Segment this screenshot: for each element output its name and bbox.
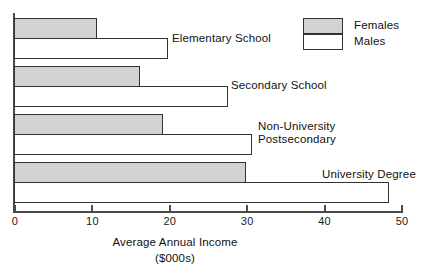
bar-males	[14, 86, 228, 107]
x-tick-label: 40	[318, 215, 331, 227]
x-tick	[14, 205, 16, 212]
bar-females	[14, 18, 97, 39]
x-tick-label: 50	[396, 215, 409, 227]
x-tick	[169, 205, 171, 212]
group-label: University Degree	[322, 168, 416, 181]
legend-label-males: Males	[354, 35, 385, 47]
x-tick-label: 20	[163, 215, 176, 227]
group-label-line1: University Degree	[322, 168, 416, 181]
group-label: Secondary School	[231, 79, 327, 92]
bar-chart: 01020304050 Elementary SchoolSecondary S…	[0, 0, 427, 274]
x-tick-label: 30	[241, 215, 254, 227]
x-tick	[246, 205, 248, 212]
bar-males	[14, 134, 252, 155]
bar-males	[14, 182, 389, 203]
group-label-line1: Elementary School	[172, 32, 271, 45]
legend-label-females: Females	[354, 19, 399, 31]
bar-females	[14, 114, 163, 135]
x-tick-label: 0	[12, 215, 18, 227]
bar-females	[14, 162, 246, 183]
x-tick	[401, 205, 403, 212]
group-label-line2: Postsecondary	[258, 133, 336, 146]
x-tick	[324, 205, 326, 212]
x-axis-title-line1: Average Annual Income	[0, 234, 350, 250]
x-axis-line	[13, 211, 403, 213]
legend-swatch-males-icon	[303, 34, 343, 50]
group-label-line1: Secondary School	[231, 79, 327, 92]
x-axis-title: Average Annual Income ($000s)	[0, 234, 350, 266]
group-label: Non-UniversityPostsecondary	[258, 120, 336, 146]
group-label-line1: Non-University	[258, 120, 336, 133]
bar-males	[14, 38, 168, 59]
bar-females	[14, 66, 140, 87]
x-tick-label: 10	[86, 215, 99, 227]
legend-swatch-females-icon	[303, 18, 343, 34]
x-tick	[91, 205, 93, 212]
group-label: Elementary School	[172, 32, 271, 45]
x-axis-title-line2: ($000s)	[0, 250, 350, 266]
